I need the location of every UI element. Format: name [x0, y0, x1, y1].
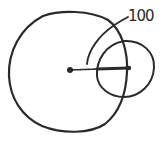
radius-line-inner — [70, 69, 98, 70]
label-100: 100 — [128, 7, 154, 25]
radius-line-outer — [97, 68, 129, 69]
center-point — [67, 67, 73, 73]
diagram-svg: 100 — [0, 0, 164, 145]
radius-end-point — [127, 66, 131, 70]
diagram-canvas: 100 — [0, 0, 164, 145]
